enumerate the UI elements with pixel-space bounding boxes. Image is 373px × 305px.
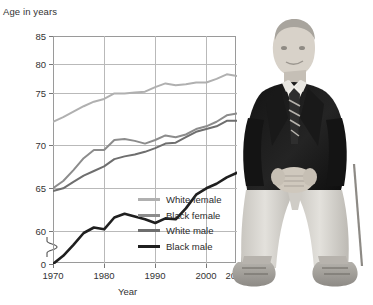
y-tick-75: 75	[20, 88, 46, 99]
legend-label-white-female: White female	[166, 194, 221, 205]
x-tickmark-1980	[104, 264, 105, 268]
y-tick-65: 65	[20, 183, 46, 194]
x-tickmark-1970	[53, 264, 54, 268]
y-tick-0: 0	[20, 259, 46, 270]
legend-swatch-white-male	[138, 229, 160, 232]
y-tick-80: 80	[20, 59, 46, 70]
legend-swatch-black-male	[138, 245, 160, 249]
legend-label-white-male: White male	[166, 225, 214, 236]
x-tickmark-2000	[206, 264, 207, 268]
legend-item-black-male: Black male	[138, 239, 236, 255]
x-tick-1980: 1980	[86, 270, 122, 281]
y-axis-title: Age in years	[3, 6, 57, 17]
legend-item-white-male: White male	[138, 223, 236, 239]
legend-label-black-male: Black male	[166, 241, 212, 252]
life-expectancy-chart: Age in years 85 80 75 70 65 60 0 1970 19…	[0, 0, 373, 305]
legend-item-black-female: Black female	[138, 208, 236, 224]
x-axis-title: Year	[118, 286, 137, 297]
x-tick-1970: 1970	[35, 270, 71, 281]
x-tickmark-1990	[155, 264, 156, 268]
elderly-man-seated-photo	[228, 14, 373, 290]
y-tick-85: 85	[20, 31, 46, 42]
y-tick-70: 70	[20, 140, 46, 151]
series-line-white-female	[53, 74, 237, 121]
y-tick-60: 60	[20, 226, 46, 237]
chart-legend: White female Black female White male Bla…	[138, 192, 236, 254]
legend-swatch-black-female	[138, 214, 160, 217]
legend-swatch-white-female	[138, 198, 160, 201]
legend-label-black-female: Black female	[166, 210, 220, 221]
legend-item-white-female: White female	[138, 192, 236, 208]
series-line-white-male	[53, 121, 237, 191]
x-tick-1990: 1990	[137, 270, 173, 281]
